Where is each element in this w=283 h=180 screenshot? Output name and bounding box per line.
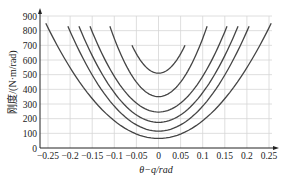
x-tick-label: 0.1 bbox=[197, 151, 209, 161]
y-tick-label: 200 bbox=[23, 114, 38, 124]
y-tick-label: 300 bbox=[23, 100, 38, 110]
x-tick-label: 0.25 bbox=[261, 151, 278, 161]
x-tick-label: −0.1 bbox=[106, 151, 123, 161]
y-tick-labels: 0100200300400500600700800900 bbox=[23, 12, 38, 154]
y-axis-label: 刚度/(N·m/rad) bbox=[6, 50, 19, 113]
x-tick-label: −0.2 bbox=[61, 151, 78, 161]
x-tick-label: 0 bbox=[156, 151, 161, 161]
y-tick-label: 400 bbox=[23, 85, 38, 95]
y-axis-arrow-icon bbox=[38, 8, 42, 14]
y-tick-label: 900 bbox=[23, 12, 38, 22]
x-tick-label: −0.15 bbox=[81, 151, 103, 161]
x-tick-label: 0.05 bbox=[172, 151, 189, 161]
stiffness-chart: 0100200300400500600700800900 −0.25−0.2−0… bbox=[0, 0, 283, 180]
y-tick-label: 700 bbox=[23, 41, 38, 51]
y-tick-label: 800 bbox=[23, 26, 38, 36]
x-tick-label: 0.2 bbox=[241, 151, 253, 161]
y-tick-label: 600 bbox=[23, 56, 38, 66]
x-tick-label: −0.05 bbox=[125, 151, 147, 161]
x-axis-label: θ−q/rad bbox=[139, 164, 173, 175]
x-axis-arrow-icon bbox=[273, 146, 279, 150]
x-tick-label: −0.25 bbox=[37, 151, 59, 161]
y-tick-label: 500 bbox=[23, 70, 38, 80]
y-tick-label: 100 bbox=[23, 129, 38, 139]
x-tick-label: 0.15 bbox=[216, 151, 233, 161]
x-tick-labels: −0.25−0.2−0.15−0.1−0.0500.050.10.150.20.… bbox=[37, 151, 278, 161]
